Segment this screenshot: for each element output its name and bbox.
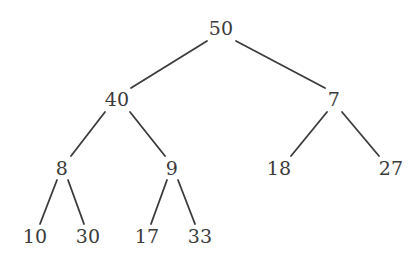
tree-edge: [68, 180, 84, 224]
tree-node-40: 40: [105, 90, 130, 109]
tree-edge: [151, 180, 167, 224]
binary-tree-figure: 5040789182710301733: [0, 0, 419, 260]
tree-node-17: 17: [135, 227, 160, 246]
tree-edge: [71, 112, 105, 156]
tree-node-18: 18: [267, 159, 292, 178]
tree-edge: [291, 112, 327, 156]
tree-node-27: 27: [379, 159, 404, 178]
tree-node-8: 8: [56, 159, 68, 178]
tree-edge: [178, 180, 195, 224]
tree-node-10: 10: [23, 227, 48, 246]
tree-node-9: 9: [166, 159, 178, 178]
tree-edge: [342, 112, 379, 156]
tree-node-30: 30: [76, 227, 101, 246]
tree-edge: [236, 41, 325, 88]
tree-edge: [40, 180, 57, 224]
tree-edge: [130, 112, 165, 156]
tree-edge-layer: [0, 0, 419, 260]
tree-node-33: 33: [188, 227, 213, 246]
tree-node-7: 7: [328, 90, 340, 109]
tree-edge: [131, 41, 207, 88]
tree-node-50: 50: [209, 19, 234, 38]
